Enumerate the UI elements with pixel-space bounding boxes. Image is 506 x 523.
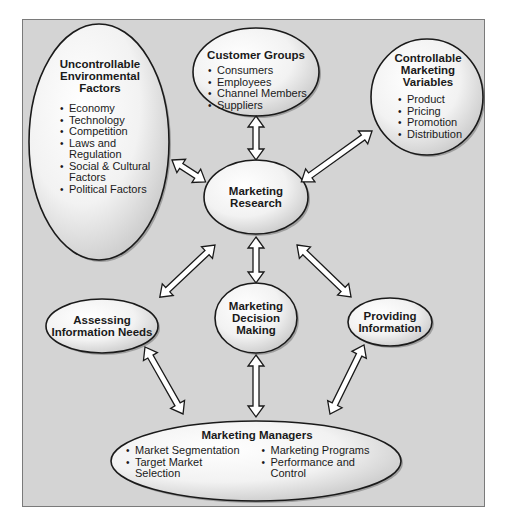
- list-item: Marketing Programs: [261, 445, 388, 457]
- node-uncontrollable: Uncontrollable Environmental Factors Eco…: [42, 58, 158, 195]
- list-item: Distribution: [398, 129, 474, 141]
- arrow-assessing-managers: [138, 343, 190, 418]
- title-line: Controllable: [382, 52, 474, 64]
- list-item: Consumers: [208, 65, 312, 77]
- list-item: Competition: [60, 126, 158, 138]
- managers-list-right: Marketing Programs Performance and Contr…: [261, 445, 388, 480]
- arrow-research-decision: [248, 237, 264, 283]
- uncontrollable-title: Uncontrollable Environmental Factors: [42, 58, 158, 94]
- list-item: Channel Members: [208, 88, 312, 100]
- node-customer-groups: Customer Groups Consumers Employees Chan…: [200, 49, 312, 111]
- arrow-research-providing: [291, 239, 356, 303]
- title-line: Environmental: [42, 70, 158, 82]
- title-line: Factors: [42, 82, 158, 94]
- title-line: Marketing: [382, 64, 474, 76]
- list-item: Political Factors: [60, 184, 158, 196]
- managers-title: Marketing Managers: [126, 429, 388, 441]
- list-item: Economy: [60, 103, 158, 115]
- title-line: Information Needs: [46, 326, 158, 338]
- arrow-controllable-research: [297, 125, 377, 189]
- managers-columns: Market Segmentation Target Market Select…: [126, 441, 388, 480]
- title-line: Research: [206, 197, 306, 209]
- arrow-research-assessing: [154, 239, 220, 303]
- title-line: Assessing: [46, 314, 158, 326]
- decision-making-title: Marketing Decision Making: [216, 300, 296, 336]
- managers-list-left: Market Segmentation Target Market Select…: [126, 445, 245, 480]
- list-item: Suppliers: [208, 100, 312, 112]
- list-item: Laws and Regulation: [60, 138, 139, 161]
- controllable-title: Controllable Marketing Variables: [382, 52, 474, 88]
- list-item: Target Market Selection: [126, 457, 245, 480]
- controllable-list: Product Pricing Promotion Distribution: [398, 94, 474, 140]
- title-line: Making: [216, 324, 296, 336]
- title-line: Uncontrollable: [42, 58, 158, 70]
- customer-groups-list: Consumers Employees Channel Members Supp…: [208, 65, 312, 111]
- list-item: Promotion: [398, 117, 474, 129]
- customer-groups-title: Customer Groups: [200, 49, 312, 61]
- node-controllable: Controllable Marketing Variables Product…: [382, 52, 474, 140]
- title-line: Marketing: [206, 185, 306, 197]
- title-line: Marketing: [216, 300, 296, 312]
- node-providing: Providing Information: [348, 310, 432, 334]
- node-decision-making: Marketing Decision Making: [216, 300, 296, 336]
- title-line: Information: [348, 322, 432, 334]
- marketing-research-title: Marketing Research: [206, 185, 306, 209]
- arrow-uncontrollable-research: [168, 153, 210, 188]
- arrow-customer-research: [248, 116, 264, 160]
- list-item: Performance and Control: [261, 457, 388, 480]
- title-line: Providing: [348, 310, 432, 322]
- node-assessing: Assessing Information Needs: [46, 314, 158, 338]
- node-marketing-research: Marketing Research: [206, 185, 306, 209]
- providing-title: Providing Information: [348, 310, 432, 334]
- arrow-providing-managers: [323, 341, 371, 417]
- list-item: Product: [398, 94, 474, 106]
- node-managers: Marketing Managers Market Segmentation T…: [126, 429, 388, 480]
- list-item: Market Segmentation: [126, 445, 245, 457]
- title-line: Variables: [382, 76, 474, 88]
- assessing-title: Assessing Information Needs: [46, 314, 158, 338]
- uncontrollable-list: Economy Technology Competition Laws and …: [60, 103, 158, 195]
- list-item: Social & Cultural Factors: [60, 161, 161, 184]
- arrow-decision-managers: [248, 355, 264, 417]
- title-line: Decision: [216, 312, 296, 324]
